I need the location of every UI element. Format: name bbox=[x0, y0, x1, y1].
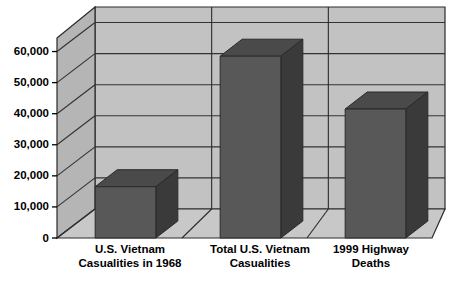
category-label-line: Deaths bbox=[352, 257, 390, 269]
category-label-line: 1999 Highway bbox=[333, 243, 410, 255]
left-wall bbox=[57, 7, 95, 238]
bar-side-face bbox=[281, 39, 303, 238]
category-label-line: Casualities bbox=[230, 257, 291, 269]
y-axis: 010,00020,00030,00040,00050,00060,000 bbox=[14, 45, 57, 243]
bar-front-face bbox=[220, 56, 281, 238]
category-label-line: Total U.S. Vietnam bbox=[210, 243, 310, 255]
y-tick-label: 30,000 bbox=[14, 138, 49, 150]
bar-chart-3d: 010,00020,00030,00040,00050,00060,000 U.… bbox=[0, 0, 454, 281]
y-tick-label: 50,000 bbox=[14, 76, 49, 88]
bar-column[interactable] bbox=[95, 170, 178, 238]
category-label-line: Casualities in 1968 bbox=[79, 257, 183, 269]
bar-column[interactable] bbox=[345, 92, 428, 238]
chart-container: 010,00020,00030,00040,00050,00060,000 U.… bbox=[0, 0, 454, 281]
category-labels: U.S. VietnamCasualities in 1968Total U.S… bbox=[79, 243, 410, 269]
category-label-line: U.S. Vietnam bbox=[95, 243, 165, 255]
bar-front-face bbox=[345, 109, 406, 238]
y-tick-label: 20,000 bbox=[14, 169, 49, 181]
bar-column[interactable] bbox=[220, 39, 303, 238]
bar-front-face bbox=[95, 187, 156, 238]
y-tick-label: 0 bbox=[43, 232, 49, 244]
y-tick-label: 60,000 bbox=[14, 45, 49, 57]
y-tick-label: 40,000 bbox=[14, 107, 49, 119]
y-tick-label: 10,000 bbox=[14, 200, 49, 212]
bar-side-face bbox=[406, 92, 428, 238]
